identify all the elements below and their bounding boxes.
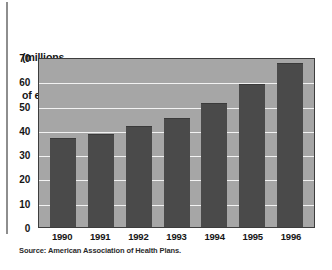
bar-slot [44, 59, 82, 227]
y-tick-label-70: 70 [19, 53, 30, 64]
y-tick-label-30: 30 [19, 150, 30, 161]
bar-1996 [277, 63, 303, 227]
bar-series [39, 59, 314, 227]
y-tick-label-50: 50 [19, 101, 30, 112]
bar-slot [271, 59, 309, 227]
source-note: Source: American Association of Health P… [19, 246, 181, 255]
x-tick-label-1996: 1996 [272, 231, 310, 242]
x-tick-label-1993: 1993 [157, 231, 195, 242]
bar-1990 [50, 138, 76, 227]
y-tick-label-20: 20 [19, 174, 30, 185]
y-tick-label-40: 40 [19, 125, 30, 136]
x-tick-label-1994: 1994 [196, 231, 234, 242]
bar-slot [233, 59, 271, 227]
x-tick-label-1992: 1992 [119, 231, 157, 242]
bar-1995 [239, 84, 265, 227]
bar-slot [158, 59, 196, 227]
bar-1994 [201, 103, 227, 227]
x-tick-label-1995: 1995 [234, 231, 272, 242]
bar-slot [195, 59, 233, 227]
x-tick-label-1991: 1991 [81, 231, 119, 242]
bar-1993 [164, 118, 190, 227]
y-tick-label-10: 10 [19, 198, 30, 209]
x-axis-tick-labels: 1990199119921993199419951996 [38, 231, 315, 242]
bar-slot [82, 59, 120, 227]
bar-1992 [126, 126, 152, 227]
bar-1991 [88, 134, 114, 228]
bar-slot [120, 59, 158, 227]
y-axis-tick-labels: 010203040506070 [0, 58, 34, 228]
y-tick-label-60: 60 [19, 77, 30, 88]
chart-plot-area [38, 58, 315, 228]
x-tick-label-1990: 1990 [43, 231, 81, 242]
y-tick-label-0: 0 [25, 223, 30, 234]
